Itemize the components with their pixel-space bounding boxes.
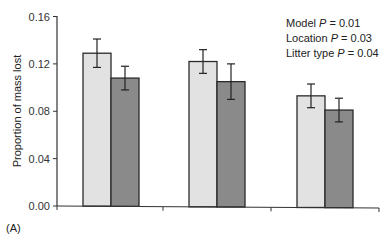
p-value-annotation: Location P = 0.03 — [286, 32, 372, 44]
y-tick-label: 0.12 — [29, 58, 50, 70]
y-tick-label: 0.04 — [29, 153, 50, 165]
y-ticks: 0.000.040.080.120.16 — [29, 11, 57, 213]
bar-dark — [111, 78, 139, 206]
y-tick-label: 0.16 — [29, 11, 50, 23]
bars-group — [83, 39, 353, 208]
bar-dark — [217, 82, 245, 207]
bar-chart: 0.000.040.080.120.16 Proportion of mass … — [0, 0, 392, 246]
p-value-annotation: Litter type P = 0.04 — [286, 47, 379, 59]
bar-light — [297, 96, 325, 208]
y-tick-label: 0.00 — [29, 200, 50, 212]
p-value-annotation: Model P = 0.01 — [286, 17, 360, 29]
bar-dark — [325, 110, 353, 208]
y-axis-title: Proportion of mass lost — [11, 55, 23, 168]
p-value-annotations: Model P = 0.01Location P = 0.03Litter ty… — [286, 17, 379, 59]
bar-light — [189, 62, 217, 207]
panel-label: (A) — [6, 222, 21, 234]
bar-light — [83, 53, 111, 206]
y-tick-label: 0.08 — [29, 105, 50, 117]
